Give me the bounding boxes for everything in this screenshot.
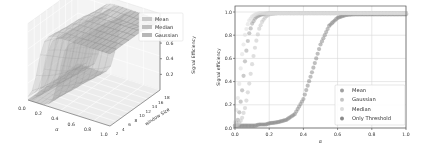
legend-label: Gaussian — [155, 32, 178, 38]
svg-text:0.4: 0.4 — [166, 56, 173, 61]
legend: MeanMedianGaussian — [139, 13, 183, 41]
svg-text:16: 16 — [158, 100, 164, 105]
y-axis-label: Signal efficiency — [216, 48, 221, 86]
legend-label: Gaussian — [352, 96, 376, 102]
svg-text:0.2: 0.2 — [266, 132, 273, 137]
svg-text:0.8: 0.8 — [225, 33, 232, 38]
svg-text:4: 4 — [122, 127, 125, 132]
svg-text:18: 18 — [164, 95, 170, 100]
legend-marker-icon — [340, 116, 344, 120]
svg-text:0.4: 0.4 — [51, 116, 58, 121]
svg-text:0.6: 0.6 — [334, 132, 341, 137]
svg-text:0.4: 0.4 — [225, 79, 232, 84]
svg-text:0.2: 0.2 — [225, 102, 232, 107]
svg-text:8: 8 — [134, 118, 137, 123]
svg-text:0.0: 0.0 — [225, 126, 232, 131]
legend-swatch-icon — [142, 25, 152, 29]
legend: MeanGaussianMedianOnly Threshold — [335, 85, 405, 125]
legend-swatch-icon — [142, 33, 152, 37]
legend-label: Median — [155, 24, 173, 30]
svg-text:0.8: 0.8 — [84, 127, 91, 132]
scatter-plot: 0.00.20.40.60.81.00.00.20.40.60.81.0αSig… — [215, 0, 429, 153]
svg-text:12: 12 — [146, 109, 152, 114]
svg-text:0.4: 0.4 — [300, 132, 307, 137]
legend-label: Median — [352, 106, 371, 112]
legend-marker-icon — [340, 107, 344, 111]
svg-text:1.0: 1.0 — [402, 132, 409, 137]
svg-text:0.2: 0.2 — [35, 111, 42, 116]
legend-marker-icon — [340, 89, 344, 93]
svg-text:1.0: 1.0 — [225, 10, 232, 15]
svg-text:0.8: 0.8 — [368, 132, 375, 137]
surface-3d-chart: 0.00.20.40.60.81.0α24681012141618window … — [0, 0, 215, 153]
svg-text:0.6: 0.6 — [68, 122, 75, 127]
svg-text:10: 10 — [139, 113, 145, 118]
svg-text:0.2: 0.2 — [166, 72, 173, 77]
legend-label: Mean — [155, 16, 169, 22]
surface-3d-plot: 0.00.20.40.60.81.0α24681012141618window … — [0, 0, 215, 153]
svg-text:2: 2 — [116, 131, 119, 136]
svg-text:0.6: 0.6 — [166, 41, 173, 46]
svg-text:0.6: 0.6 — [225, 56, 232, 61]
svg-text:1.0: 1.0 — [100, 132, 107, 137]
svg-text:0.0: 0.0 — [18, 106, 25, 111]
svg-text:14: 14 — [152, 104, 158, 109]
x-axis-label: α — [319, 138, 323, 144]
svg-text:0.0: 0.0 — [231, 132, 238, 137]
legend-swatch-icon — [142, 17, 152, 21]
signal-efficiency-scatter-chart: 0.00.20.40.60.81.00.00.20.40.60.81.0αSig… — [215, 0, 429, 153]
legend-label: Only Threshold — [352, 115, 391, 122]
svg-text:6: 6 — [128, 122, 131, 127]
legend-marker-icon — [340, 98, 344, 102]
z-axis-label: Signal Efficiency — [191, 36, 196, 74]
x-axis-label: α — [55, 126, 59, 132]
legend-label: Mean — [352, 87, 366, 93]
